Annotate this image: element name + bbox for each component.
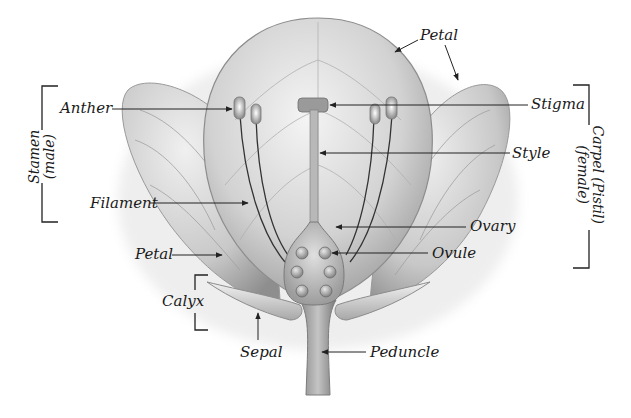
label-anther: Anther bbox=[60, 101, 112, 116]
label-peduncle: Peduncle bbox=[370, 345, 439, 360]
label-stamen: Stamen bbox=[27, 117, 42, 197]
flower-diagram: Petal Anther Stigma Style Filament Ovary… bbox=[0, 0, 631, 418]
label-stigma: Stigma bbox=[531, 97, 585, 112]
label-carpel-group: Carpel (Pistil) (female) bbox=[575, 115, 604, 235]
label-calyx: Calyx bbox=[162, 294, 204, 309]
label-style: Style bbox=[512, 146, 550, 161]
label-stamen-sex: (male) bbox=[42, 117, 57, 197]
label-filament: Filament bbox=[90, 196, 158, 211]
label-carpel: Carpel (Pistil) bbox=[590, 115, 605, 235]
label-petal-top: Petal bbox=[420, 28, 458, 43]
label-petal-left: Petal bbox=[135, 247, 173, 262]
label-stamen-group: Stamen (male) bbox=[27, 117, 56, 197]
label-carpel-sex: (female) bbox=[575, 115, 590, 235]
label-ovary: Ovary bbox=[470, 219, 515, 234]
label-ovule: Ovule bbox=[432, 246, 476, 261]
label-sepal: Sepal bbox=[240, 345, 283, 360]
